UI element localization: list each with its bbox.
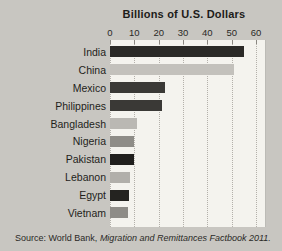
category-label-lebanon: Lebanon bbox=[0, 171, 110, 183]
category-label-egypt: Egypt bbox=[0, 189, 110, 201]
source-note: Source: World Bank, Migration and Remitt… bbox=[15, 233, 271, 243]
category-label-india: India bbox=[0, 46, 110, 58]
axis-tick-label-0: 0 bbox=[107, 27, 112, 38]
category-label-philippines: Philippines bbox=[0, 100, 110, 112]
bar-bangladesh bbox=[110, 118, 137, 129]
chart-title: Billions of U.S. Dollars bbox=[110, 8, 258, 20]
source-prefix: Source: World Bank, bbox=[15, 233, 100, 243]
bar-lebanon bbox=[110, 172, 130, 183]
bar-row-philippines: Philippines bbox=[0, 100, 265, 112]
bar-row-bangladesh: Bangladesh bbox=[0, 118, 265, 130]
bar-pakistan bbox=[110, 154, 134, 165]
bar-row-nigeria: Nigeria bbox=[0, 135, 265, 147]
bar-row-egypt: Egypt bbox=[0, 189, 265, 201]
axis-tick-label-20: 20 bbox=[153, 27, 164, 38]
bar-vietnam bbox=[110, 207, 128, 218]
bar-china bbox=[110, 64, 234, 75]
category-label-nigeria: Nigeria bbox=[0, 135, 110, 147]
bar-row-india: India bbox=[0, 46, 265, 58]
remittances-bar-chart-figure: Billions of U.S. Dollars IndiaChinaMexic… bbox=[0, 0, 282, 251]
category-label-vietnam: Vietnam bbox=[0, 207, 110, 219]
bar-india bbox=[110, 46, 244, 57]
bar-row-china: China bbox=[0, 64, 265, 76]
axis-tick-label-30: 30 bbox=[178, 27, 189, 38]
axis-tick-label-10: 10 bbox=[129, 27, 140, 38]
bar-philippines bbox=[110, 100, 162, 111]
category-label-china: China bbox=[0, 64, 110, 76]
source-citation: Migration and Remittances Factbook 2011. bbox=[100, 233, 271, 243]
bar-egypt bbox=[110, 190, 129, 201]
category-label-pakistan: Pakistan bbox=[0, 153, 110, 165]
axis-tick-label-40: 40 bbox=[202, 27, 213, 38]
bar-row-mexico: Mexico bbox=[0, 82, 265, 94]
category-label-bangladesh: Bangladesh bbox=[0, 118, 110, 130]
axis-tick-label-50: 50 bbox=[226, 27, 237, 38]
axis-tick-label-60: 60 bbox=[251, 27, 262, 38]
bar-row-vietnam: Vietnam bbox=[0, 207, 265, 219]
bar-nigeria bbox=[110, 136, 134, 147]
bar-mexico bbox=[110, 82, 165, 93]
category-label-mexico: Mexico bbox=[0, 82, 110, 94]
bar-row-pakistan: Pakistan bbox=[0, 153, 265, 165]
bar-rows: IndiaChinaMexicoPhilippinesBangladeshNig… bbox=[0, 40, 265, 227]
bar-row-lebanon: Lebanon bbox=[0, 171, 265, 183]
